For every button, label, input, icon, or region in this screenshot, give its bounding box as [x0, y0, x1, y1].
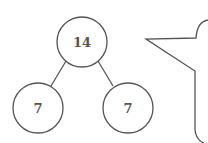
root-node: 14	[57, 17, 107, 67]
speech-bubble	[146, 20, 208, 143]
edge-root-left	[51, 61, 66, 86]
left-node: 7	[13, 83, 63, 133]
right-node: 7	[103, 83, 153, 133]
left-value: 7	[33, 101, 42, 116]
right-value: 7	[123, 101, 132, 116]
root-value: 14	[73, 35, 91, 50]
edge-root-right	[98, 61, 113, 86]
number-bond-diagram: 14 7 7	[0, 0, 208, 143]
